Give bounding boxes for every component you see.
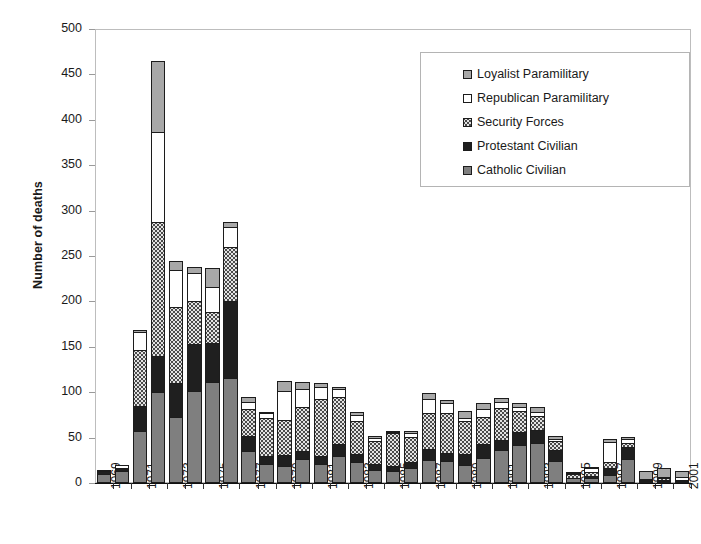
bar-segment-2000-security-forces [657, 478, 671, 480]
bar-segment-1992-protestant-civilian [512, 432, 526, 445]
bar-1975[interactable] [205, 29, 219, 483]
legend-swatch-icon [463, 142, 472, 151]
bar-1977[interactable] [241, 29, 255, 483]
bar-1981[interactable] [314, 29, 328, 483]
bar-segment-1993-security-forces [530, 416, 544, 431]
bar-segment-1997-security-forces [603, 462, 617, 467]
y-tick-label: 200 [61, 293, 82, 307]
bar-segment-1980-catholic-civilian [295, 459, 309, 483]
bar-segment-1978-protestant-civilian [259, 456, 273, 464]
bar-segment-1980-republican-paramilitary [295, 389, 309, 407]
bar-segment-1974-protestant-civilian [187, 344, 201, 391]
bar-1970[interactable] [115, 29, 129, 483]
legend-swatch-icon [463, 118, 472, 127]
bar-segment-1997-catholic-civilian [603, 475, 617, 483]
bar-segment-1972-protestant-civilian [151, 356, 165, 392]
bar-segment-1971-catholic-civilian [133, 431, 147, 483]
y-tick-label: 250 [61, 248, 82, 262]
bar-segment-1988-republican-paramilitary [440, 403, 454, 413]
bar-segment-1980-protestant-civilian [295, 451, 309, 459]
bar-segment-1987-security-forces [422, 413, 436, 448]
bar-segment-1981-catholic-civilian [314, 464, 328, 483]
legend-item-republican-paramilitary[interactable]: Republican Paramilitary [421, 86, 689, 110]
bar-segment-1978-republican-paramilitary [259, 413, 273, 418]
bar-segment-1993-loyalist-paramilitary [530, 407, 544, 412]
bar-segment-1997-protestant-civilian [603, 468, 617, 475]
legend-swatch-icon [463, 70, 472, 79]
bar-segment-1973-republican-paramilitary [169, 270, 183, 307]
bar-1971[interactable] [133, 29, 147, 483]
bar-segment-1981-protestant-civilian [314, 456, 328, 464]
x-tick [312, 483, 313, 489]
bar-segment-1998-security-forces [621, 443, 635, 447]
legend-item-security-forces[interactable]: Security Forces [421, 110, 689, 134]
bar-segment-1973-catholic-civilian [169, 417, 183, 483]
bar-segment-1982-loyalist-paramilitary [332, 387, 346, 389]
bar-segment-1971-protestant-civilian [133, 406, 147, 431]
bar-segment-1987-catholic-civilian [422, 460, 436, 483]
bar-segment-2000-catholic-civilian [657, 481, 671, 483]
bar-segment-1993-protestant-civilian [530, 430, 544, 443]
y-tick-label: 150 [61, 339, 82, 353]
y-tick-label: 50 [68, 430, 82, 444]
bar-segment-1973-security-forces [169, 307, 183, 383]
bar-segment-1972-security-forces [151, 222, 165, 356]
bar-1983[interactable] [350, 29, 364, 483]
bar-segment-1996-security-forces [584, 472, 598, 476]
legend-item-protestant-civilian[interactable]: Protestant Civilian [421, 134, 689, 158]
x-tick [456, 483, 457, 489]
legend-item-loyalist-paramilitary[interactable]: Loyalist Paramilitary [421, 62, 689, 86]
bar-segment-1984-catholic-civilian [368, 470, 382, 483]
bar-1976[interactable] [223, 29, 237, 483]
chart-legend: Loyalist ParamilitaryRepublican Paramili… [420, 52, 690, 187]
bar-1985[interactable] [386, 29, 400, 483]
x-tick [528, 483, 529, 489]
bar-segment-1995-loyalist-paramilitary [566, 472, 580, 473]
bar-segment-1971-loyalist-paramilitary [133, 330, 147, 332]
bar-segment-1991-loyalist-paramilitary [494, 398, 508, 403]
bar-segment-1994-loyalist-paramilitary [548, 436, 562, 439]
bar-segment-1975-republican-paramilitary [205, 287, 219, 312]
bar-1980[interactable] [295, 29, 309, 483]
bar-segment-1986-loyalist-paramilitary [404, 431, 418, 433]
bar-1974[interactable] [187, 29, 201, 483]
bar-segment-1989-loyalist-paramilitary [458, 411, 472, 417]
bar-1979[interactable] [277, 29, 291, 483]
bar-1978[interactable] [259, 29, 273, 483]
bar-segment-1983-republican-paramilitary [350, 415, 364, 421]
bar-segment-1989-catholic-civilian [458, 465, 472, 483]
bar-1982[interactable] [332, 29, 346, 483]
bar-segment-1989-security-forces [458, 421, 472, 454]
bar-segment-1984-protestant-civilian [368, 464, 382, 470]
bar-1986[interactable] [404, 29, 418, 483]
bar-segment-1978-loyalist-paramilitary [259, 412, 273, 413]
bar-segment-1979-loyalist-paramilitary [277, 381, 291, 391]
bar-1969[interactable] [97, 29, 111, 483]
bar-segment-1970-republican-paramilitary [115, 465, 129, 469]
bar-1984[interactable] [368, 29, 382, 483]
y-tick-label: 100 [61, 384, 82, 398]
bar-segment-1990-republican-paramilitary [476, 409, 490, 416]
bar-1973[interactable] [169, 29, 183, 483]
bar-segment-1984-loyalist-paramilitary [368, 436, 382, 437]
bar-segment-1994-catholic-civilian [548, 461, 562, 483]
x-tick [637, 483, 638, 489]
bar-segment-1985-catholic-civilian [386, 471, 400, 483]
bar-segment-1975-protestant-civilian [205, 343, 219, 382]
bar-1972[interactable] [151, 29, 165, 483]
legend-item-catholic-civilian[interactable]: Catholic Civilian [421, 158, 689, 182]
bar-segment-1995-security-forces [566, 474, 580, 478]
bar-segment-1976-protestant-civilian [223, 301, 237, 377]
bar-segment-1974-security-forces [187, 301, 201, 345]
bar-segment-1974-loyalist-paramilitary [187, 267, 201, 273]
bar-segment-1982-republican-paramilitary [332, 389, 346, 397]
bar-segment-1974-catholic-civilian [187, 391, 201, 483]
bar-segment-1992-loyalist-paramilitary [512, 403, 526, 407]
bar-segment-1979-republican-paramilitary [277, 391, 291, 420]
bar-segment-1993-republican-paramilitary [530, 412, 544, 416]
y-tick-label: 500 [61, 21, 82, 35]
y-axis-title: Number of deaths [31, 155, 45, 315]
bar-segment-1994-republican-paramilitary [548, 439, 562, 442]
bar-segment-1987-loyalist-paramilitary [422, 393, 436, 398]
bar-segment-1975-catholic-civilian [205, 382, 219, 483]
